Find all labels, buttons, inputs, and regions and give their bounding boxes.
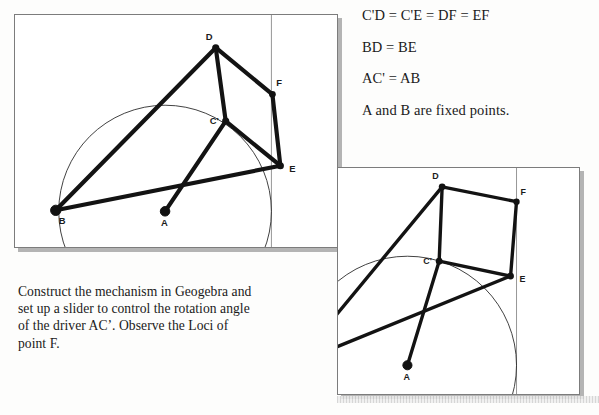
worksheet-page: B A C' D E F: [0, 0, 599, 415]
instruction-text: Construct the mechanism in Geogebra and …: [18, 283, 254, 352]
point-label-F: F: [520, 187, 526, 197]
joint-A: [403, 361, 412, 370]
figure-1-canvas: B A C' D E F: [15, 15, 337, 247]
equation-1: C'D = C'E = DF = EF: [362, 8, 592, 23]
link-BD: [56, 48, 216, 211]
equation-3: AC' = AB: [362, 71, 592, 86]
joint-D: [439, 183, 446, 190]
joint-C: [222, 118, 229, 125]
joint-E: [507, 273, 514, 280]
point-label-E: E: [289, 163, 295, 174]
joint-E: [277, 162, 284, 169]
fixed-points-statement: A and B are fixed points.: [362, 103, 592, 118]
page-edge-strip: [337, 396, 599, 403]
point-label-A: A: [161, 217, 168, 228]
link-DF: [216, 48, 273, 95]
link-BE: [338, 276, 511, 363]
instruction-paragraph: Construct the mechanism in Geogebra and …: [18, 283, 254, 352]
point-label-D: D: [432, 171, 439, 181]
link-DF: [442, 187, 516, 202]
link-DC: [216, 48, 226, 121]
joint-C: [436, 258, 443, 265]
link-CE: [439, 261, 510, 276]
joint-D: [212, 44, 219, 51]
equation-2: BD = BE: [362, 40, 592, 55]
point-label-A: A: [403, 372, 410, 382]
driver-circle: [338, 256, 517, 394]
mechanism-figure-2: B A C' D E F: [337, 167, 580, 395]
link-AC: [407, 261, 439, 365]
point-label-F: F: [276, 77, 282, 88]
link-BD: [338, 187, 442, 363]
point-label-E: E: [519, 274, 525, 284]
point-label-B: B: [59, 215, 66, 226]
joint-A: [160, 207, 170, 217]
point-label-C: C': [423, 256, 432, 266]
joint-B: [51, 205, 61, 215]
linkage-bars: [56, 48, 281, 212]
equations-block: C'D = C'E = DF = EF BD = BE AC' = AB A a…: [362, 8, 592, 117]
link-DC: [439, 187, 442, 261]
figure-2-canvas: B A C' D E F: [338, 168, 579, 394]
point-label-C: C': [210, 115, 219, 126]
link-EF: [272, 94, 280, 165]
joint-F: [269, 91, 276, 98]
joint-F: [513, 199, 519, 205]
link-CE: [226, 121, 281, 166]
mechanism-figure-1: B A C' D E F: [14, 14, 338, 248]
link-EF: [511, 202, 517, 276]
linkage-bars: [338, 187, 517, 365]
point-label-D: D: [206, 31, 213, 42]
link-AC: [165, 121, 226, 211]
